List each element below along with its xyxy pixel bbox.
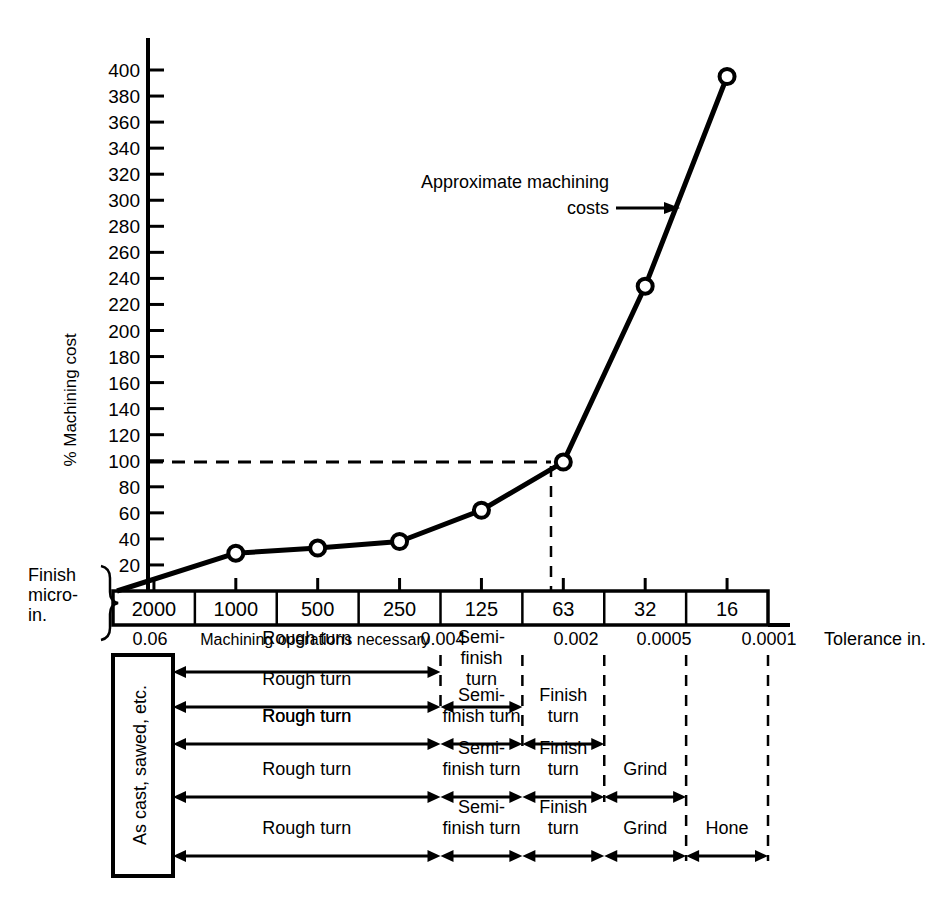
data-point-250 [392,534,407,549]
tolerance-value-4: 0.0001 [741,629,796,649]
annotation-line-1: Approximate machining [421,172,609,192]
operation-row-5: Rough turnSemi-finish turnFinishturnGrin… [173,797,768,862]
y-tick-labels: 2040608010012014016018020022024026028030… [108,60,140,576]
operation-arrow-r5-s5 [686,850,768,862]
operation-arrow-r4-s1 [173,791,441,803]
y-tick-label-60: 60 [119,503,140,524]
operation-label-r5-s5: Hone [706,818,749,838]
finish-label-line-3: in. [28,605,47,625]
finish-cell-2000: 2000 [132,598,177,620]
y-axis-label: % Machining cost [61,333,80,467]
operation-arrow-r3-s1 [173,738,441,750]
operation-label-r5-s3: turn [548,818,579,838]
operation-label-r4-s3: turn [548,759,579,779]
y-tick-label-160: 160 [108,373,140,394]
y-axis: 2040608010012014016018020022024026028030… [61,38,164,591]
y-tick-label-120: 120 [108,425,140,446]
data-point-1000 [228,546,243,561]
operation-arrow-r5-s4 [604,850,686,862]
cost-curve [117,69,735,591]
finish-cell-16: 16 [716,598,738,620]
tolerance-value-2: 0.002 [553,629,598,649]
annotation-line-2: costs [567,198,609,218]
operations-table: As cast, sawed, etc. Rough turnRough tur… [113,627,768,876]
operation-label-r3-s3: turn [548,706,579,726]
data-point-500 [310,541,325,556]
operation-arrow-r5-s1 [173,850,441,862]
y-tick-marks [148,70,164,565]
cost-curve-line [117,77,727,592]
operation-label-r3-s3: Finish [539,685,587,705]
operation-label-r4-s2: Semi- [458,738,505,758]
y-tick-label-320: 320 [108,164,140,185]
data-point-63 [556,455,571,470]
data-point-32 [638,279,653,294]
tolerance-axis-name: Tolerance in. [824,629,926,649]
operation-label-r3-s2: finish turn [442,706,520,726]
operation-rows: Rough turnRough turnSemi-finishturnRough… [173,627,768,862]
finish-brace [101,566,118,640]
operation-label-r5-s3: Finish [539,797,587,817]
tolerance-value-0: 0.06 [132,629,167,649]
operation-label-r2-s2: Semi- [458,627,505,647]
finish-label-line-2: micro- [28,585,78,605]
finish-label-line-1: Finish [28,565,76,585]
y-tick-label-300: 300 [108,190,140,211]
y-tick-label-100: 100 [108,451,140,472]
finish-band-top-ticks [154,578,727,591]
operation-label-r5-s4: Grind [623,818,667,838]
operation-arrow-r4-s4 [604,791,686,803]
data-point-16 [720,69,735,84]
chart-root: 2040608010012014016018020022024026028030… [0,0,946,897]
operation-label-r1-extra: Rough turn [262,706,351,726]
operation-label-r2-s2: finish [460,648,502,668]
operation-label-r5-s2: finish turn [442,818,520,838]
y-tick-label-400: 400 [108,60,140,81]
operation-label-r4-s4: Grind [623,759,667,779]
machining-cost-chart: 2040608010012014016018020022024026028030… [0,0,946,897]
finish-cell-1000: 1000 [214,598,259,620]
y-tick-label-140: 140 [108,399,140,420]
operation-label-r4-s2: finish turn [442,759,520,779]
y-tick-label-360: 360 [108,112,140,133]
finish-cell-63: 63 [552,598,574,620]
finish-cell-labels: 20001000500250125633216 [132,598,739,620]
y-tick-label-180: 180 [108,347,140,368]
reference-lines [150,462,551,590]
operation-label-r3-s2: Semi- [458,685,505,705]
y-tick-label-280: 280 [108,216,140,237]
tolerance-value-3: 0.0005 [636,629,691,649]
finish-cell-125: 125 [465,598,498,620]
tolerance-row: 0.06 Machining operations necessary 0.00… [132,629,926,649]
y-tick-label-340: 340 [108,138,140,159]
finish-cell-32: 32 [634,598,656,620]
y-tick-label-200: 200 [108,321,140,342]
operation-label-r5-s2: Semi- [458,797,505,817]
y-tick-label-260: 260 [108,242,140,263]
cost-curve-markers [228,69,734,561]
y-tick-label-220: 220 [108,294,140,315]
operation-label-r4-s1: Rough turn [262,759,351,779]
y-tick-label-380: 380 [108,86,140,107]
operation-label-r2-s1: Rough turn [262,669,351,689]
data-point-125 [474,503,489,518]
y-tick-label-20: 20 [119,555,140,576]
y-tick-label-40: 40 [119,529,140,550]
finish-axis-label: Finish micro- in. [28,565,118,640]
operation-arrow-r5-s3 [522,850,604,862]
operation-arrow-r5-s2 [441,850,523,862]
finish-cell-separators [195,591,686,625]
curve-annotation: Approximate machining costs [421,172,680,218]
finish-cell-band: 20001000500250125633216 [113,578,790,625]
y-tick-label-240: 240 [108,268,140,289]
finish-cell-250: 250 [383,598,416,620]
operation-label-r1-s1: Rough turn [262,628,351,648]
operation-label-r4-s3: Finish [539,738,587,758]
operation-label-r5-s1: Rough turn [262,818,351,838]
y-tick-label-80: 80 [119,477,140,498]
finish-cell-500: 500 [301,598,334,620]
stock-label: As cast, sawed, etc. [130,685,150,845]
